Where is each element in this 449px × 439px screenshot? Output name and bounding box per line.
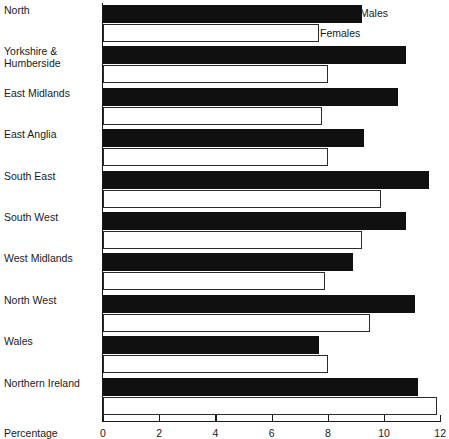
x-tick-label: 10	[378, 427, 390, 439]
bar-group	[103, 171, 443, 208]
x-tick-label: 2	[156, 427, 162, 439]
bar-males[interactable]	[103, 171, 429, 189]
x-tick-label: 12	[434, 427, 446, 439]
x-tick	[440, 415, 441, 422]
bar-chart: NorthYorkshire &HumbersideEast MidlandsE…	[0, 0, 449, 439]
bar-females[interactable]	[103, 65, 328, 83]
bar-males[interactable]	[103, 212, 406, 230]
x-tick	[272, 415, 273, 422]
bar-males[interactable]	[103, 253, 353, 271]
x-tick	[384, 415, 385, 422]
bar-females[interactable]	[103, 397, 437, 415]
bar-females[interactable]	[103, 148, 328, 166]
bar-group	[103, 336, 443, 373]
bar-females[interactable]	[103, 24, 319, 42]
bar-group	[103, 295, 443, 332]
x-tick-label: 6	[269, 427, 275, 439]
category-label: North West	[4, 295, 100, 307]
bar-males[interactable]	[103, 378, 418, 396]
legend-females-label: Females	[320, 27, 360, 39]
bar-females[interactable]	[103, 355, 328, 373]
bar-group	[103, 212, 443, 249]
bar-group	[103, 88, 443, 125]
x-tick	[103, 415, 104, 422]
category-label: East Anglia	[4, 129, 100, 141]
x-tick-label: 0	[100, 427, 106, 439]
bar-females[interactable]	[103, 190, 381, 208]
bar-females[interactable]	[103, 231, 362, 249]
category-label: North	[4, 5, 100, 17]
bar-males[interactable]	[103, 46, 406, 64]
plot-area	[103, 0, 443, 421]
category-label: South East	[4, 171, 100, 183]
category-label: Northern Ireland	[4, 378, 100, 390]
x-tick	[215, 415, 216, 422]
category-label: East Midlands	[4, 88, 100, 100]
bar-males[interactable]	[103, 336, 319, 354]
bar-males[interactable]	[103, 129, 364, 147]
bar-males[interactable]	[103, 295, 415, 313]
x-tick	[328, 415, 329, 422]
bar-females[interactable]	[103, 107, 322, 125]
bar-group	[103, 129, 443, 166]
bar-group	[103, 5, 443, 42]
legend-males-label: Males	[360, 7, 388, 19]
bar-group	[103, 46, 443, 83]
bar-males[interactable]	[103, 88, 398, 106]
x-tick-label: 8	[325, 427, 331, 439]
bar-females[interactable]	[103, 272, 325, 290]
bar-group	[103, 378, 443, 415]
bar-females[interactable]	[103, 314, 370, 332]
bar-males[interactable]	[103, 5, 362, 23]
category-label: Yorkshire &Humberside	[4, 46, 100, 69]
category-label: Wales	[4, 336, 100, 348]
category-label: South West	[4, 212, 100, 224]
category-label: West Midlands	[4, 253, 100, 265]
bar-group	[103, 253, 443, 290]
x-tick-label: 4	[212, 427, 218, 439]
x-axis-title: Percentage	[4, 427, 58, 439]
x-tick	[159, 415, 160, 422]
